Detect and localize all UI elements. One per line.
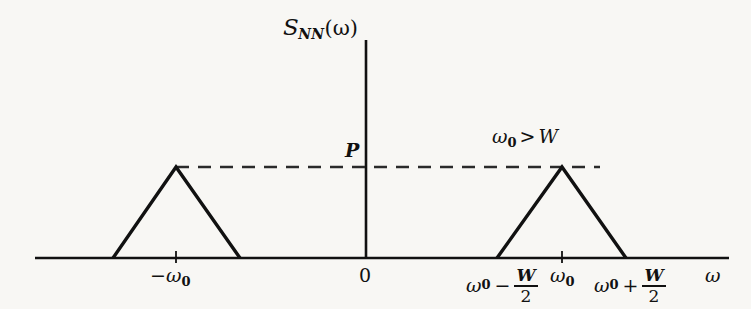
upper-band-edge-base: ω xyxy=(594,274,610,296)
lower-band-edge-fraction: W 2 xyxy=(514,267,537,305)
y-axis-label-paren-open: ( xyxy=(324,16,332,40)
tick-label-positive-center: ω0 xyxy=(550,266,575,288)
lower-band-edge-numerator: W xyxy=(514,267,537,285)
y-axis-label: SNN(ω) xyxy=(283,16,358,41)
origin-tick-label: 0 xyxy=(359,266,371,285)
condition-lhs-subscript: 0 xyxy=(508,135,517,150)
spectral-density-figure: SNN(ω) P ω0>W 0 −ω0 ω0 − W 2 ω0 ω0 + W 2… xyxy=(0,0,751,309)
upper-band-edge-subscript: 0 xyxy=(610,277,619,292)
tick-label-negative-center: −ω0 xyxy=(150,266,190,288)
tick-label-positive-center-subscript: 0 xyxy=(566,274,575,289)
condition-operator: > xyxy=(517,125,539,147)
plot-canvas xyxy=(0,0,751,309)
x-axis-label: ω xyxy=(705,266,721,285)
upper-band-edge-numerator: W xyxy=(642,267,665,285)
lower-band-edge-operator: − xyxy=(491,274,515,296)
tick-label-negative-center-base: −ω xyxy=(150,264,181,286)
positive-frequency-lobe xyxy=(497,167,626,258)
lower-band-edge-base: ω xyxy=(466,274,482,296)
lower-band-edge-denominator: 2 xyxy=(519,287,534,305)
condition-rhs-symbol: W xyxy=(538,125,558,147)
amplitude-label: P xyxy=(345,141,359,160)
y-axis-label-argument: ω xyxy=(333,16,350,40)
negative-frequency-lobe xyxy=(113,167,240,258)
upper-band-edge-fraction: W 2 xyxy=(642,267,665,305)
upper-band-edge-denominator: 2 xyxy=(647,287,662,305)
lower-band-edge-subscript: 0 xyxy=(482,277,491,292)
condition-lhs-symbol: ω xyxy=(492,125,508,147)
y-axis-label-subscript: NN xyxy=(298,26,324,42)
tick-label-upper-band-edge: ω0 + W 2 xyxy=(594,266,666,304)
condition-annotation: ω0>W xyxy=(492,127,558,149)
tick-label-lower-band-edge: ω0 − W 2 xyxy=(466,266,538,304)
y-axis-label-paren-close: ) xyxy=(350,16,358,40)
tick-label-negative-center-subscript: 0 xyxy=(181,274,190,289)
y-axis-label-symbol: S xyxy=(283,14,298,40)
tick-label-positive-center-base: ω xyxy=(550,264,566,286)
upper-band-edge-operator: + xyxy=(619,274,643,296)
